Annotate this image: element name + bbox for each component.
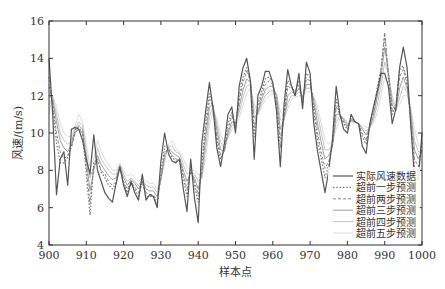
legend-label: 超前一步预测 bbox=[356, 181, 416, 193]
legend-label: 超前三步预测 bbox=[356, 204, 416, 216]
legend-label: 超前四步预测 bbox=[356, 216, 416, 228]
x-axis-title: 样本点 bbox=[219, 265, 252, 279]
wind-speed-forecast-chart: 9009109209309409509609709809901000468101… bbox=[0, 0, 445, 289]
x-tick-label: 950 bbox=[225, 249, 246, 262]
x-tick-label: 960 bbox=[262, 249, 283, 262]
x-tick-label: 970 bbox=[300, 249, 321, 262]
x-tick-label: 930 bbox=[150, 249, 171, 262]
x-tick-label: 920 bbox=[113, 249, 134, 262]
legend: 实际风速数据超前一步预测超前两步预测超前三步预测超前四步预测超前五步预测 bbox=[328, 167, 420, 239]
legend-label: 实际风速数据 bbox=[356, 170, 416, 182]
y-tick-label: 14 bbox=[30, 52, 44, 65]
y-tick-label: 6 bbox=[37, 202, 44, 215]
x-tick-label: 1000 bbox=[408, 249, 436, 262]
y-tick-label: 8 bbox=[37, 164, 44, 177]
x-tick-label: 990 bbox=[374, 249, 395, 262]
x-tick-label: 940 bbox=[188, 249, 209, 262]
y-tick-label: 12 bbox=[30, 90, 44, 103]
x-tick-label: 980 bbox=[337, 249, 358, 262]
y-tick-label: 4 bbox=[37, 239, 44, 252]
x-tick-label: 910 bbox=[76, 249, 97, 262]
y-tick-label: 16 bbox=[30, 15, 44, 28]
y-axis-title: 风速/(m/s) bbox=[12, 106, 25, 160]
legend-label: 超前两步预测 bbox=[356, 193, 416, 205]
legend-label: 超前五步预测 bbox=[356, 227, 416, 239]
y-tick-label: 10 bbox=[30, 127, 44, 140]
